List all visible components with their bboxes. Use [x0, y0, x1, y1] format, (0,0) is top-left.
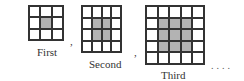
shaded-cell	[158, 41, 170, 53]
grid-cell	[40, 29, 51, 40]
grid-cell	[82, 6, 92, 18]
grid-cell	[92, 6, 102, 18]
grid-cell	[92, 41, 102, 53]
grid-cell	[111, 18, 121, 30]
shaded-cell	[169, 29, 181, 41]
shaded-cell	[40, 17, 51, 28]
label-first: First	[37, 47, 57, 58]
grid-cell	[82, 29, 92, 41]
grid-cell	[146, 18, 158, 30]
shaded-cell	[158, 18, 170, 30]
shaded-cell	[181, 18, 193, 30]
label-third: Third	[161, 70, 185, 81]
grid-cell	[181, 52, 193, 64]
separator-comma-1: ,	[70, 36, 73, 47]
shaded-cell	[181, 41, 193, 53]
grid-cell	[192, 52, 204, 64]
grid-cell	[40, 6, 51, 17]
shaded-cell	[169, 41, 181, 53]
grid-cell	[192, 41, 204, 53]
separator-comma-2: ,	[134, 47, 137, 58]
grid-cell	[102, 6, 112, 18]
grid-cell	[146, 29, 158, 41]
grid-cell	[29, 6, 40, 17]
grid-cell	[146, 41, 158, 53]
grid-first	[28, 5, 64, 41]
shaded-cell	[102, 29, 112, 41]
grid-cell	[29, 17, 40, 28]
shaded-cell	[158, 29, 170, 41]
grid-cell	[111, 6, 121, 18]
grid-cell	[158, 6, 170, 18]
shaded-cell	[181, 29, 193, 41]
grid-cell	[158, 52, 170, 64]
shaded-cell	[102, 18, 112, 30]
shaded-cell	[169, 18, 181, 30]
grid-cell	[169, 52, 181, 64]
grid-cell	[181, 6, 193, 18]
grid-second	[81, 5, 122, 53]
grid-cell	[111, 41, 121, 53]
grid-cell	[192, 6, 204, 18]
grid-cell	[29, 29, 40, 40]
grid-cell	[169, 6, 181, 18]
grid-third	[145, 5, 205, 65]
grid-cell	[102, 41, 112, 53]
grid-cell	[82, 18, 92, 30]
grid-cell	[146, 6, 158, 18]
grid-cell	[192, 18, 204, 30]
grid-cell	[82, 41, 92, 53]
grid-cell	[111, 29, 121, 41]
grid-cell	[52, 17, 63, 28]
grid-cell	[146, 52, 158, 64]
shaded-cell	[92, 18, 102, 30]
grid-cell	[192, 29, 204, 41]
label-second: Second	[89, 59, 121, 70]
shaded-cell	[92, 29, 102, 41]
continuation-ellipsis: ....	[211, 61, 233, 71]
grid-cell	[52, 29, 63, 40]
grid-cell	[52, 6, 63, 17]
